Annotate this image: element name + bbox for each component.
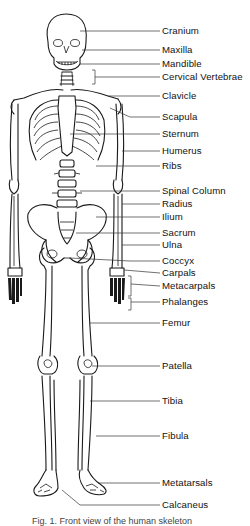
label-radius: Radius (162, 199, 192, 209)
rib-cage (29, 96, 105, 160)
label-spinal-column: Spinal Column (162, 186, 226, 196)
skull (47, 14, 86, 70)
label-fibula: Fibula (162, 431, 189, 441)
lower-legs (42, 376, 92, 470)
label-metatarsals: Metatarsals (162, 478, 213, 488)
label-humerus: Humerus (162, 146, 202, 156)
lumbar-spine (52, 160, 82, 207)
label-carpals: Carpals (162, 268, 196, 278)
label-calcaneus: Calcaneus (162, 500, 208, 510)
label-sacrum: Sacrum (162, 228, 196, 238)
label-sternum: Sternum (162, 129, 199, 139)
label-patella: Patella (162, 361, 192, 371)
label-phalanges: Phalanges (162, 297, 208, 307)
left-arm (8, 104, 22, 304)
feet (34, 470, 106, 496)
label-ribs: Ribs (162, 161, 182, 171)
shoulder-girdle (11, 89, 121, 114)
label-scapula: Scapula (162, 112, 197, 122)
label-mandible: Mandible (162, 59, 202, 69)
label-metacarpals: Metacarpals (162, 281, 215, 291)
label-ilium: Ilium (162, 212, 183, 222)
femurs (38, 248, 98, 374)
label-femur: Femur (162, 318, 190, 328)
label-tibia: Tibia (162, 396, 183, 406)
figure-caption: Fig. 1. Front view of the human skeleton (32, 516, 192, 526)
label-clavicle: Clavicle (162, 91, 196, 101)
label-coccyx: Coccyx (162, 256, 194, 266)
label-maxilla: Maxilla (162, 45, 193, 55)
label-ulna: Ulna (162, 240, 182, 250)
label-cranium: Cranium (162, 26, 199, 36)
cervical-vertebrae (60, 72, 74, 86)
label-cervical-vertebrae: Cervical Vertebrae (162, 72, 243, 82)
